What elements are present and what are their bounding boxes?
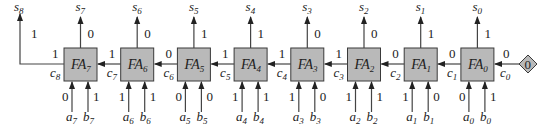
full-adder-7: FA7 s7 0 0 1 a7 b7 1 c8	[50, 0, 100, 126]
a-input-label: a6	[123, 109, 135, 126]
sum-value: 0	[144, 26, 151, 41]
full-adder-0: FA0 s0 1 0 1 a0 b0 0 c1	[438, 0, 496, 126]
a-input-value: 1	[402, 89, 409, 104]
b-input-value: 0	[206, 89, 213, 104]
carry-in-source-value: 0	[525, 57, 532, 72]
b-input-label: b4	[253, 109, 265, 126]
ripple-carry-adder-diagram: FA7 s7 0 0 1 a7 b7 1 c8 FA6 s6 0 1 1 a6 …	[0, 0, 548, 128]
sum-label: s5	[189, 0, 199, 16]
b-input-label: b0	[480, 109, 492, 126]
full-adder-6: FA6 s6 0 1 1 a6 b6 1 c7	[98, 0, 156, 126]
b-input-value: 0	[433, 89, 440, 104]
carry-out-label: c1	[447, 65, 457, 82]
c0-value: 0	[503, 46, 510, 61]
carry-out-value: 1	[52, 46, 59, 61]
a-input-label: a0	[463, 109, 475, 126]
sum-label: s6	[132, 0, 142, 16]
carry-out-label: c5	[220, 65, 231, 82]
carry-out-value: 0	[449, 46, 456, 61]
s8-value: 1	[31, 26, 38, 41]
carry-out-label: c3	[334, 65, 345, 82]
carry-out-value: 0	[392, 46, 399, 61]
a-input-label: a2	[350, 109, 362, 126]
s8-label: s8	[14, 0, 24, 16]
a-input-value: 1	[232, 89, 239, 104]
a-input-value: 1	[289, 89, 296, 104]
carry-in: 0 c0 0	[495, 46, 537, 82]
carry-out-value: 1	[336, 46, 343, 61]
full-adder-4: FA4 s4 1 1 1 a4 b4 1 c5	[211, 0, 269, 126]
a-input-label: a3	[293, 109, 305, 126]
carry-out-label: c7	[107, 65, 118, 82]
a-input-label: a4	[236, 109, 248, 126]
full-adder-2: FA2 s2 0 1 1 a2 b2 1 c3	[325, 0, 383, 126]
sum-value: 1	[201, 26, 208, 41]
sum-value: 1	[484, 26, 491, 41]
sum-label: s2	[359, 0, 369, 16]
b-input-label: b5	[196, 109, 208, 126]
b-input-value: 0	[320, 89, 327, 104]
carry-out-value: 1	[222, 46, 229, 61]
sum-label: s7	[76, 0, 86, 16]
carry-out-label: c8	[50, 65, 61, 82]
a-input-value: 0	[175, 89, 182, 104]
b-input-label: b2	[367, 109, 379, 126]
a-input-label: a1	[406, 109, 417, 126]
b-input-label: b7	[83, 109, 95, 126]
sum-label: s3	[302, 0, 312, 16]
a-input-label: a5	[179, 109, 191, 126]
carry-out-label: c4	[277, 65, 288, 82]
sum-value: 1	[428, 26, 435, 41]
sum-label: s4	[246, 0, 256, 16]
b-input-value: 1	[490, 89, 497, 104]
a-input-value: 1	[119, 89, 126, 104]
a-input-value: 0	[62, 89, 69, 104]
sum-label: s0	[472, 0, 482, 16]
carry-out-label: c6	[163, 65, 174, 82]
full-adder-3: FA3 s3 0 1 0 a3 b3 1 c4	[268, 0, 326, 126]
b-input-value: 1	[263, 89, 270, 104]
full-adder-1: FA1 s1 1 1 0 a1 b1 0 c2	[382, 0, 440, 126]
b-input-value: 1	[93, 89, 100, 104]
carry-out-value: 1	[109, 46, 116, 61]
b-input-label: b6	[140, 109, 152, 126]
sum-label: s1	[416, 0, 426, 16]
carry-out-value: 0	[165, 46, 172, 61]
b-input-value: 1	[377, 89, 384, 104]
sum-value: 1	[258, 26, 265, 41]
carry-out-value: 1	[279, 46, 286, 61]
a-input-value: 0	[459, 89, 466, 104]
b-input-label: b1	[423, 109, 434, 126]
full-adder-5: FA5 s5 1 0 0 a5 b5 0 c6	[155, 0, 213, 126]
b-input-value: 1	[150, 89, 157, 104]
carry-out-label: c2	[390, 65, 401, 82]
a-input-value: 1	[346, 89, 353, 104]
sum-value: 0	[88, 26, 95, 41]
b-input-label: b3	[310, 109, 322, 126]
sum-value: 0	[314, 26, 321, 41]
c0-label: c0	[500, 65, 511, 82]
sum-value: 0	[371, 26, 378, 41]
a-input-label: a7	[66, 109, 78, 126]
